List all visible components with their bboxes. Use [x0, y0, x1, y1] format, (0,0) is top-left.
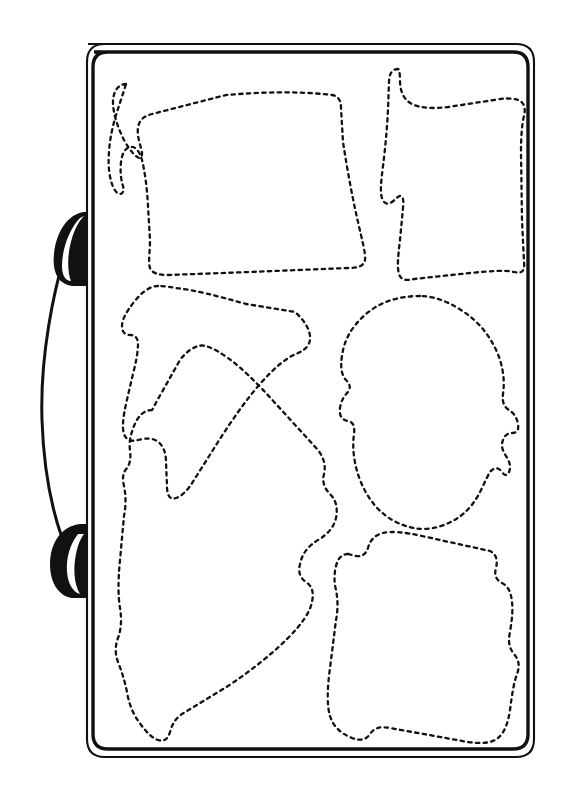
- piece-top-left[interactable]: [109, 84, 366, 275]
- handle-anchor-bottom: [50, 524, 86, 598]
- piece-top-right[interactable]: [381, 69, 525, 280]
- handle-group[interactable]: [42, 212, 86, 598]
- piece-bottom-right[interactable]: [328, 532, 519, 743]
- pieces-layer: [109, 69, 525, 743]
- case-inner-border: [93, 52, 528, 749]
- piece-middle-right[interactable]: [340, 296, 518, 529]
- case-body: [87, 44, 534, 757]
- handle-anchor-top-body: [54, 212, 86, 286]
- handle-anchor-top: [54, 212, 86, 286]
- case-diagram-svg: Flat-lay case packing diagram Line drawi…: [0, 0, 575, 801]
- figure-canvas: Flat-lay case packing diagram Line drawi…: [0, 0, 575, 801]
- piece-bottom-left[interactable]: [116, 346, 337, 741]
- piece-middle-left[interactable]: [122, 286, 310, 499]
- case-outer-border: [87, 44, 534, 757]
